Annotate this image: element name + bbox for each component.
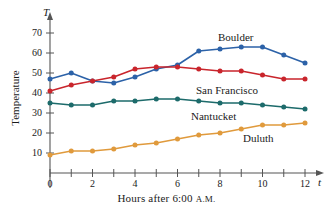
series-label-san-francisco: San Francisco	[196, 84, 258, 96]
data-point	[260, 103, 265, 108]
data-point	[239, 127, 244, 132]
data-point	[239, 45, 244, 50]
y-tick-label: 50	[22, 67, 42, 78]
temperature-line-chart: T t Temperature Hours after 6:00 A.M. 02…	[0, 0, 333, 215]
data-point	[175, 65, 180, 70]
x-tick-label: 8	[211, 178, 229, 189]
x-tick-label: 10	[254, 178, 272, 189]
data-point	[196, 99, 201, 104]
data-point	[281, 105, 286, 110]
data-point	[154, 97, 159, 102]
y-axis-symbol: T	[43, 6, 49, 18]
data-point	[154, 141, 159, 146]
y-tick-label: 20	[22, 127, 42, 138]
data-point	[111, 81, 116, 86]
data-point	[48, 77, 53, 82]
data-point	[239, 69, 244, 74]
data-point	[218, 101, 223, 106]
data-point	[218, 131, 223, 136]
data-point	[303, 107, 308, 112]
data-point	[196, 49, 201, 54]
x-tick-label: 12	[296, 178, 314, 189]
data-point	[133, 75, 138, 80]
x-axis-title-ampm: A.M.	[196, 194, 216, 204]
data-point	[260, 123, 265, 128]
data-point	[48, 101, 53, 106]
data-point	[133, 143, 138, 148]
data-point	[69, 83, 74, 88]
data-point	[281, 77, 286, 82]
y-axis-title: Temperature	[9, 52, 21, 144]
data-point	[69, 71, 74, 76]
y-tick-label: 30	[22, 107, 42, 118]
data-point	[281, 53, 286, 58]
data-point	[48, 153, 53, 158]
x-tick-label: 4	[126, 178, 144, 189]
data-point	[133, 67, 138, 72]
data-point	[260, 45, 265, 50]
data-point	[69, 103, 74, 108]
data-point	[48, 89, 53, 94]
series-label-duluth: Duluth	[243, 132, 274, 144]
x-tick-label: 2	[84, 178, 102, 189]
x-axis-title-main: Hours after 6:00	[117, 192, 195, 204]
data-point	[175, 97, 180, 102]
data-point	[90, 79, 95, 84]
data-point	[90, 149, 95, 154]
data-point	[281, 123, 286, 128]
x-axis-title: Hours after 6:00 A.M.	[0, 192, 333, 204]
data-point	[90, 103, 95, 108]
data-point	[303, 61, 308, 66]
series-label-nantucket: Nantucket	[191, 110, 236, 122]
data-point	[111, 99, 116, 104]
y-tick-label: 60	[22, 47, 42, 58]
x-tick-label: 6	[169, 178, 187, 189]
data-point	[196, 133, 201, 138]
data-point	[69, 149, 74, 154]
data-point	[111, 147, 116, 152]
data-point	[175, 137, 180, 142]
y-tick-label: 70	[22, 27, 42, 38]
data-point	[196, 67, 201, 72]
data-point	[111, 75, 116, 80]
data-point	[218, 47, 223, 52]
data-point	[218, 69, 223, 74]
y-tick-label: 40	[22, 87, 42, 98]
data-point	[133, 99, 138, 104]
x-axis-symbol: t	[318, 176, 321, 188]
series-label-boulder: Boulder	[218, 31, 253, 43]
series-nantucket	[48, 97, 308, 112]
data-point	[303, 121, 308, 126]
data-point	[260, 73, 265, 78]
x-tick-label: 0	[41, 178, 59, 189]
data-point	[154, 65, 159, 70]
y-tick-label: 10	[22, 147, 42, 158]
data-point	[239, 101, 244, 106]
data-point	[303, 77, 308, 82]
